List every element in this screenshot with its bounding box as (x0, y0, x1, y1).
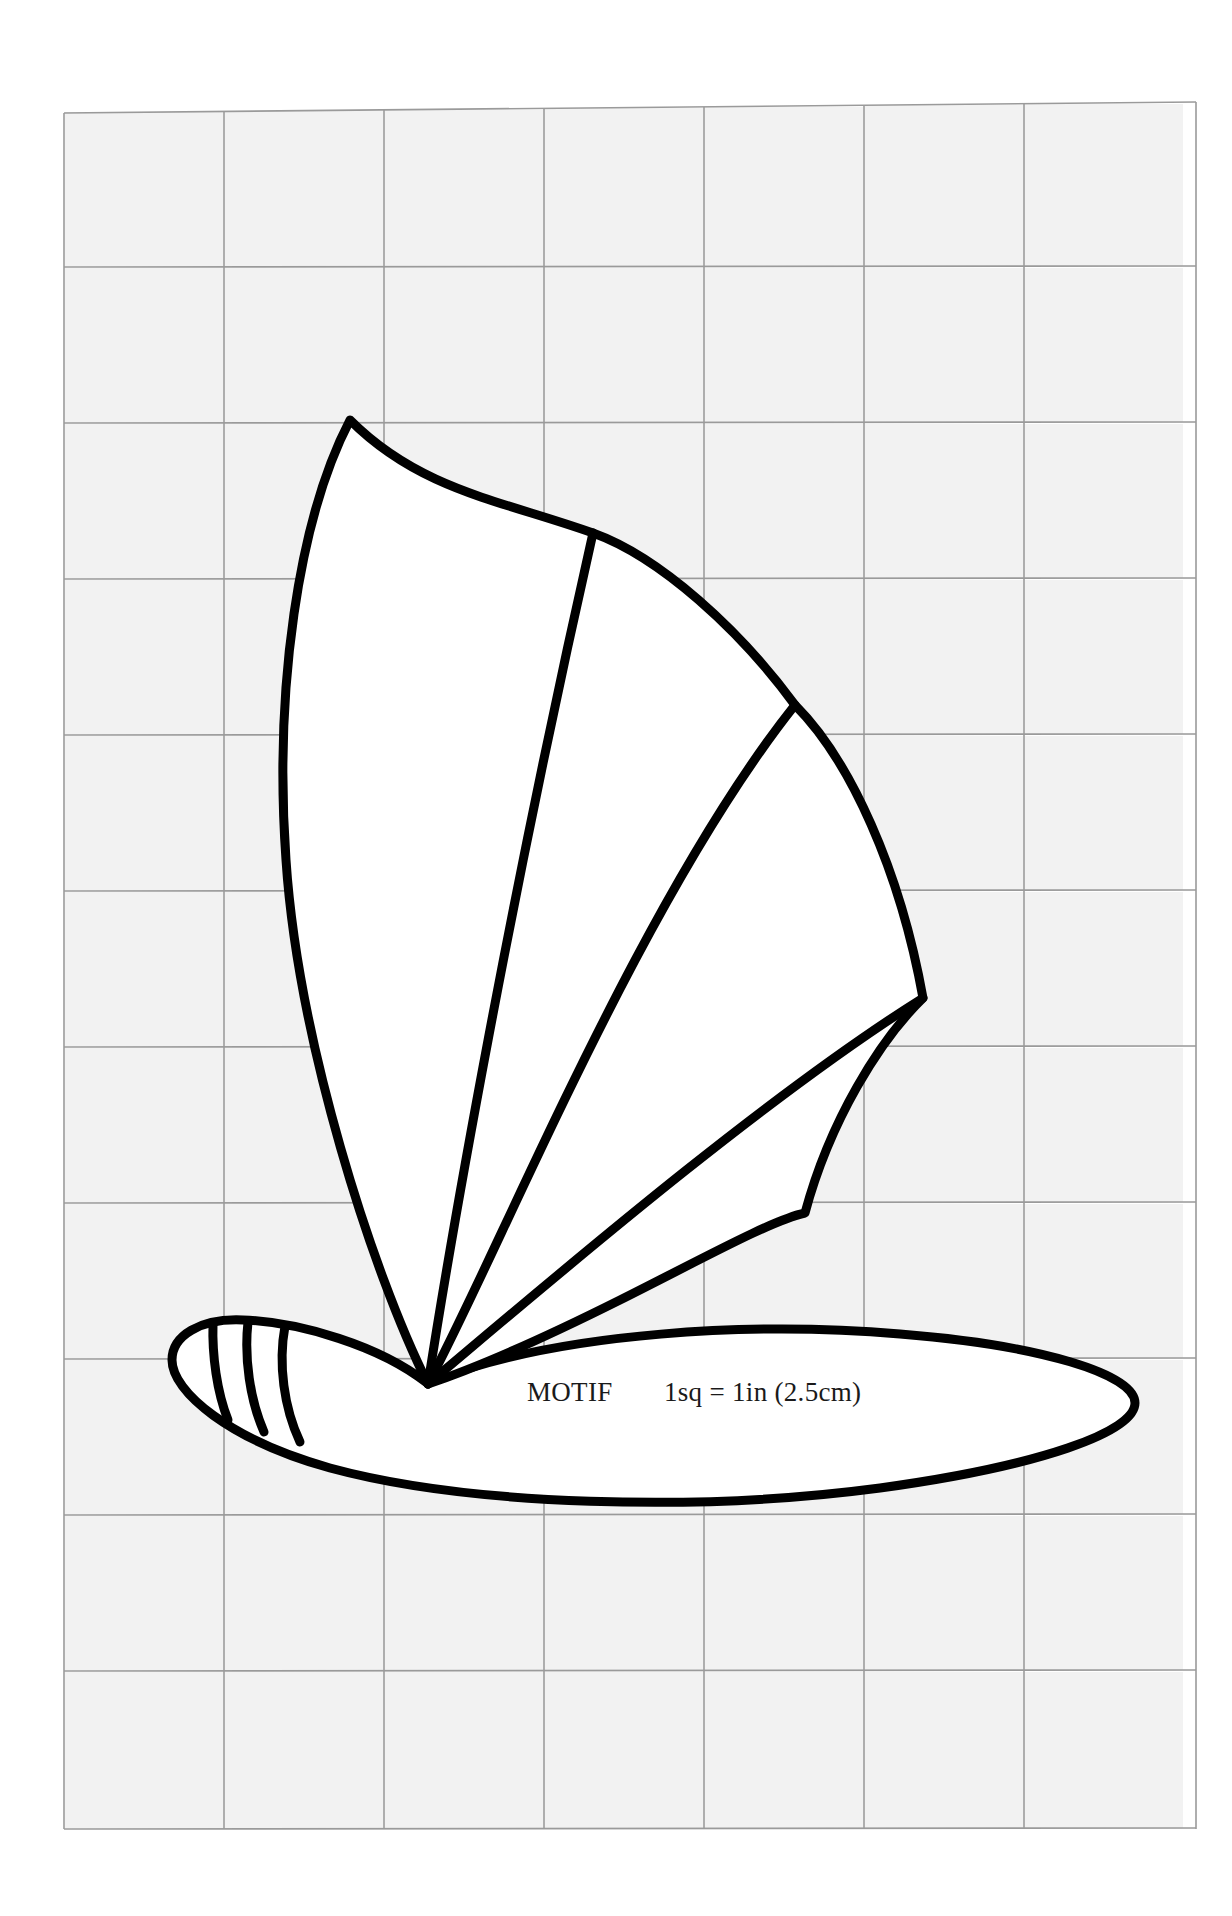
pattern-canvas (0, 0, 1232, 1916)
motif-label: MOTIF (527, 1377, 613, 1408)
pattern-sheet: MOTIF 1sq = 1in (2.5cm) (0, 0, 1232, 1916)
scale-label: 1sq = 1in (2.5cm) (664, 1377, 861, 1408)
